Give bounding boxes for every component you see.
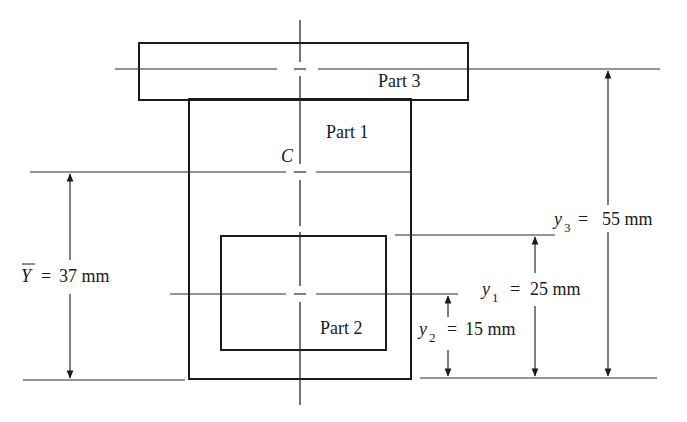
y3-label: y 3 = 55 mm [552, 209, 653, 235]
centroid-label: C [281, 146, 294, 166]
composite-section-diagram: Part 3 Part 1 Part 2 C Y = 37 mm y 3 = 5… [0, 0, 687, 422]
svg-text:2: 2 [429, 330, 436, 345]
svg-text:1: 1 [492, 290, 499, 305]
ybar-label: Y = 37 mm [21, 264, 110, 286]
part-1-label: Part 1 [326, 122, 369, 142]
svg-text:3: 3 [564, 220, 571, 235]
part-3-label: Part 3 [378, 71, 421, 91]
svg-text:15 mm: 15 mm [465, 319, 516, 339]
svg-text:=: = [510, 279, 520, 299]
svg-text:55 mm: 55 mm [602, 209, 653, 229]
svg-text:25 mm: 25 mm [530, 279, 581, 299]
svg-text:=: = [41, 266, 51, 286]
svg-text:37 mm: 37 mm [59, 266, 110, 286]
svg-text:Y: Y [21, 266, 33, 286]
svg-text:y: y [480, 279, 490, 299]
svg-text:y: y [417, 319, 427, 339]
part-2-label: Part 2 [320, 318, 363, 338]
y2-label: y 2 = 15 mm [417, 319, 516, 345]
svg-text:=: = [447, 319, 457, 339]
svg-text:=: = [578, 209, 588, 229]
svg-text:y: y [552, 209, 562, 229]
y1-label: y 1 = 25 mm [480, 279, 581, 305]
